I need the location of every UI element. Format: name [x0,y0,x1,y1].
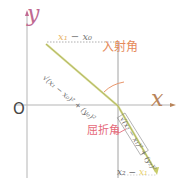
refracted-horizontal-label: x₂ − x₁ [117,168,148,177]
incidence-angle-label: 入射角 [102,40,116,55]
x-axis-arrow-icon [170,103,176,107]
x-axis-label: x [151,88,163,110]
y-axis-label: y [27,3,39,25]
x1-term: x₁ [139,167,148,177]
refraction-angle-label: 屈折角 [87,125,120,136]
origin-label: O [13,102,25,117]
x2-minus-term: x₂ − [117,167,139,177]
incident-horizontal-label: x₁ − x₀ [58,32,92,42]
x1-term: x₁ [58,31,68,42]
incidence-angle-arc [104,82,124,92]
minus-x0-term: − x₀ [68,31,92,42]
